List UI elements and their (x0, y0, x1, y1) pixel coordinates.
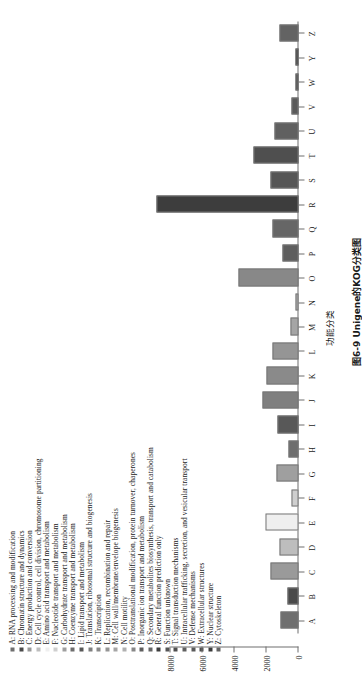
value-tick (201, 646, 202, 652)
value-tick (169, 646, 170, 652)
bar-h (288, 440, 298, 457)
legend-item-p: P: Inorganic ion transport and metabolis… (137, 321, 146, 651)
legend-swatch-icon (113, 647, 117, 651)
legend-item-label: F: Nucleotide transport and metabolism (51, 523, 60, 644)
value-tick (265, 646, 266, 652)
value-tick-label: 6000 (198, 655, 207, 676)
bar-c (270, 562, 298, 579)
legend-swatch-icon (79, 647, 83, 651)
category-tick-label-m: M (307, 319, 316, 335)
category-tick (298, 302, 304, 303)
legend-swatch-icon (70, 647, 74, 651)
bar-q (272, 220, 298, 237)
category-tick-label-v: V (307, 99, 316, 115)
category-tick (298, 326, 304, 327)
bar-d (279, 538, 298, 555)
category-tick-label-w: W (307, 74, 316, 90)
bar-t (253, 146, 298, 163)
bar-g (276, 464, 298, 481)
value-tick-label: 0 (294, 655, 303, 676)
figure-caption: 图6-9 Unigene的KOG分类图 (349, 0, 362, 633)
category-tick-label-n: N (307, 295, 316, 311)
legend-item-a: A: RNA processing and modification (8, 321, 17, 651)
category-tick (298, 595, 304, 596)
category-tick (298, 448, 304, 449)
bar-m (290, 317, 298, 334)
legend-item-k: K: Transcription (94, 321, 103, 651)
category-tick-label-c: C (307, 564, 316, 580)
bar-p (282, 244, 298, 261)
legend-swatch-icon (173, 647, 177, 651)
legend-item-label: C: Energy production and conversion (25, 530, 34, 644)
category-tick (298, 106, 304, 107)
legend-swatch-icon (156, 647, 160, 651)
category-tick-label-u: U (307, 123, 316, 139)
category-tick (298, 204, 304, 205)
legend-swatch-icon (182, 647, 186, 651)
legend-swatch-icon (96, 647, 100, 651)
legend-swatch-icon (139, 647, 143, 651)
legend-swatch-icon (105, 647, 109, 651)
category-tick (298, 424, 304, 425)
category-tick (298, 179, 304, 180)
bar-z (279, 24, 298, 41)
legend-item-m: M: Cell wall/membrane/envelope biogenesi… (111, 321, 120, 651)
category-tick (298, 522, 304, 523)
category-tick (298, 277, 304, 278)
category-tick-label-g: G (307, 466, 316, 482)
legend-swatch-icon (27, 647, 31, 651)
legend-swatch-icon (122, 647, 126, 651)
category-tick (298, 57, 304, 58)
legend-swatch-icon (19, 647, 23, 651)
legend-swatch-icon (10, 647, 14, 651)
bar-i (277, 415, 298, 432)
category-tick-label-q: Q (307, 221, 316, 237)
category-tick-label-e: E (307, 515, 316, 531)
category-tick (298, 399, 304, 400)
legend-item-f: F: Nucleotide transport and metabolism (51, 321, 60, 651)
category-tick (298, 497, 304, 498)
bar-b (287, 587, 298, 604)
legend-swatch-icon (36, 647, 40, 651)
category-tick (298, 130, 304, 131)
category-tick (298, 546, 304, 547)
bar-e (265, 513, 298, 530)
legend-swatch-icon (53, 647, 57, 651)
legend-swatch-icon (148, 647, 152, 651)
bar-f (291, 489, 298, 506)
category-tick (298, 571, 304, 572)
legend-item-label: H: Coenzyme transport and metabolism (68, 523, 77, 644)
legend-item-label: K: Transcription (94, 594, 103, 644)
bar-a (280, 611, 298, 628)
legend-swatch-icon (191, 647, 195, 651)
category-tick-label-b: B (307, 588, 316, 604)
legend-item-label: R: General function prediction only (154, 535, 163, 644)
value-tick-label: 8000 (166, 655, 175, 676)
category-tick (298, 473, 304, 474)
category-tick-label-i: I (307, 417, 316, 433)
bar-r (156, 195, 298, 212)
category-tick-label-o: O (307, 270, 316, 286)
value-tick (233, 646, 234, 652)
bar-j (262, 391, 298, 408)
category-axis-title: 功能分类 (322, 21, 334, 633)
bar-v (291, 97, 298, 114)
legend-swatch-icon (88, 647, 92, 651)
category-tick-label-l: L (307, 343, 316, 359)
category-tick (298, 32, 304, 33)
category-tick-label-f: F (307, 490, 316, 506)
bar-u (274, 122, 298, 139)
legend-item-label: M: Cell wall/membrane/envelope biogenesi… (111, 508, 120, 644)
category-tick-label-h: H (307, 441, 316, 457)
bar-o (238, 268, 298, 285)
category-tick-label-y: Y (307, 50, 316, 66)
legend-swatch-icon (131, 647, 135, 651)
legend-item-label: P: Inorganic ion transport and metabolis… (137, 515, 146, 644)
category-tick-label-s: S (307, 172, 316, 188)
category-tick (298, 253, 304, 254)
category-tick-label-t: T (307, 148, 316, 164)
legend-swatch-icon (216, 647, 220, 651)
category-tick (298, 81, 304, 82)
category-tick (298, 620, 304, 621)
